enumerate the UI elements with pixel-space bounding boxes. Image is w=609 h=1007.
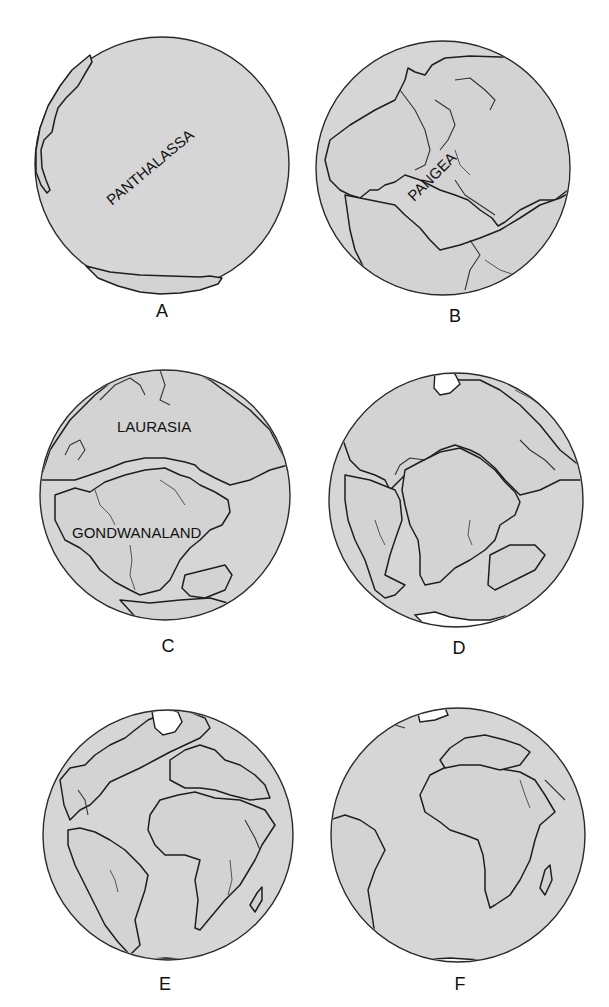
caption-b: B <box>449 306 461 326</box>
caption-e: E <box>159 974 171 994</box>
panel-b: PANGEA B <box>316 41 600 326</box>
landmass-south-c <box>120 598 235 625</box>
caption-f: F <box>455 974 466 994</box>
label-laurasia: LAURASIA <box>117 418 191 435</box>
panel-a: PANTHALASSA A <box>35 37 289 321</box>
panel-f: F <box>328 705 585 994</box>
panel-c: LAURASIA GONDWANALAND C <box>40 365 290 656</box>
caption-a: A <box>156 301 168 321</box>
panel-e: E <box>43 708 293 994</box>
caption-c: C <box>162 636 175 656</box>
continental-drift-figure: PANTHALASSA A PANGEA B <box>0 0 609 1007</box>
caption-d: D <box>453 638 466 658</box>
panel-d: D <box>329 368 585 658</box>
label-gondwanaland: GONDWANALAND <box>72 524 202 541</box>
